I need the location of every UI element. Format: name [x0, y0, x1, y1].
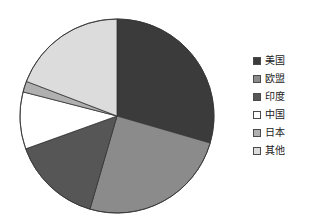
legend-item-日本[interactable]: 日本 [253, 124, 309, 142]
legend-item-印度[interactable]: 印度 [253, 88, 309, 106]
legend-swatch-icon [253, 111, 261, 119]
legend-swatch-icon [253, 57, 261, 65]
pie-slice-group [20, 19, 214, 213]
legend-item-中国[interactable]: 中国 [253, 106, 309, 124]
legend-item-label: 其他 [265, 142, 285, 160]
legend-swatch-icon [253, 75, 261, 83]
legend-item-label: 印度 [265, 88, 285, 106]
legend-item-label: 日本 [265, 124, 285, 142]
legend-item-美国[interactable]: 美国 [253, 52, 309, 70]
legend-item-label: 美国 [265, 52, 285, 70]
legend-swatch-icon [253, 129, 261, 137]
legend-item-其他[interactable]: 其他 [253, 142, 309, 160]
legend-item-label: 欧盟 [265, 70, 285, 88]
legend-swatch-icon [253, 93, 261, 101]
pie-svg [0, 0, 236, 223]
legend-item-欧盟[interactable]: 欧盟 [253, 70, 309, 88]
legend: 美国欧盟印度中国日本其他 [253, 52, 309, 160]
pie-plot-area [0, 0, 236, 223]
legend-item-label: 中国 [265, 106, 285, 124]
pie-chart-figure: 美国欧盟印度中国日本其他 [0, 0, 309, 223]
legend-swatch-icon [253, 147, 261, 155]
